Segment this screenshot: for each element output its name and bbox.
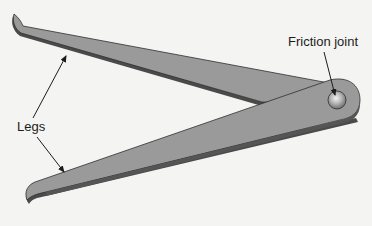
legs-arrow-lower [37,137,64,172]
legs-arrow-upper [33,56,66,118]
friction-joint [328,91,346,109]
legs-label: Legs [17,120,45,134]
caliper-diagram: Friction joint Legs [0,0,372,226]
friction-joint-label: Friction joint [288,35,358,49]
rivet-icon [328,91,346,109]
lower-leg [26,79,360,204]
